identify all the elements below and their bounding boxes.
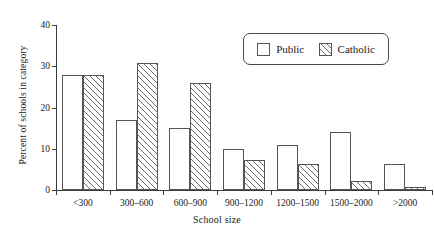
bar-public-1 [116, 120, 137, 190]
x-tick-label-3: 900–1200 [217, 199, 271, 209]
x-tick-label-0: <300 [56, 199, 110, 209]
y-tick-label-30: 30 [28, 62, 50, 72]
x-tick-6 [378, 190, 379, 195]
x-tick-label-5: 1500–2000 [325, 199, 379, 209]
y-axis-title: Percent of schools in category [18, 20, 28, 190]
bar-public-2 [169, 128, 190, 190]
x-tick-4 [271, 190, 272, 195]
x-axis-title: School size [0, 214, 434, 225]
legend-entry-public: Public [257, 43, 304, 56]
bar-public-0 [62, 75, 83, 191]
y-tick-label-10: 10 [28, 145, 50, 155]
x-tick-2 [163, 190, 164, 195]
bar-public-5 [330, 132, 351, 190]
bar-public-3 [223, 149, 244, 190]
bar-chart: Percent of schools in category 010203040… [0, 0, 434, 239]
x-tick-end [432, 190, 433, 195]
y-tick-label-0: 0 [28, 186, 50, 196]
x-tick-5 [325, 190, 326, 195]
bar-catholic-0 [83, 75, 104, 191]
x-tick-1 [110, 190, 111, 195]
legend: Public Catholic [243, 33, 389, 65]
x-tick-label-2: 600–900 [163, 199, 217, 209]
y-tick-20 [52, 108, 57, 109]
bar-public-4 [277, 145, 298, 190]
bar-catholic-3 [244, 160, 265, 190]
x-tick-label-6: >2000 [378, 199, 432, 209]
y-tick-30 [52, 66, 57, 67]
x-axis-line [56, 190, 432, 191]
x-tick-label-4: 1200–1500 [271, 199, 325, 209]
legend-swatch-hatched-icon [319, 43, 332, 56]
legend-label-public: Public [276, 44, 304, 55]
y-tick-label-40: 40 [28, 21, 50, 31]
bar-public-6 [384, 164, 405, 190]
y-tick-40 [52, 25, 57, 26]
y-tick-10 [52, 149, 57, 150]
y-tick-label-20: 20 [28, 104, 50, 114]
bar-catholic-2 [190, 83, 211, 190]
legend-entry-catholic: Catholic [319, 43, 375, 56]
x-tick-3 [217, 190, 218, 195]
legend-swatch-open-icon [257, 43, 270, 56]
x-tick-0 [56, 190, 57, 195]
legend-label-catholic: Catholic [338, 44, 375, 55]
x-tick-label-1: 300–600 [110, 199, 164, 209]
bar-catholic-5 [351, 181, 372, 190]
bar-catholic-6 [405, 187, 426, 190]
bar-catholic-1 [137, 63, 158, 190]
bar-catholic-4 [298, 164, 319, 190]
